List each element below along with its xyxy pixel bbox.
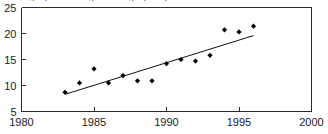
data-point-marker — [222, 27, 227, 32]
x-tick-label: 1980 — [9, 116, 33, 128]
data-point-marker — [193, 58, 198, 63]
y-tick-label: 10 — [4, 80, 16, 92]
data-point-marker — [77, 80, 82, 85]
chart-figure: Average percentage change per year 51015… — [0, 0, 328, 134]
y-axis-labels: 510152025 — [4, 2, 16, 118]
x-tick-label: 1995 — [227, 116, 251, 128]
plot-frame — [22, 8, 312, 112]
x-axis-ticks — [22, 107, 312, 112]
y-tick-label: 25 — [4, 2, 16, 14]
scatter-chart: 510152025 19801985199019952000 — [0, 0, 328, 134]
data-point-marker — [207, 53, 212, 58]
data-points — [62, 24, 256, 95]
x-tick-label: 1985 — [82, 116, 106, 128]
y-tick-label: 20 — [4, 28, 16, 40]
data-point-marker — [135, 78, 140, 83]
data-point-marker — [251, 24, 256, 29]
data-point-marker — [236, 29, 241, 34]
data-point-marker — [149, 78, 154, 83]
y-tick-label: 15 — [4, 54, 16, 66]
data-point-marker — [91, 66, 96, 71]
y-axis-ticks — [22, 8, 26, 112]
trend-line-segment — [65, 36, 254, 95]
data-point-marker — [120, 73, 125, 78]
x-axis-labels: 19801985199019952000 — [9, 116, 323, 128]
x-tick-label: 1990 — [154, 116, 178, 128]
trend-line — [65, 36, 254, 95]
x-tick-label: 2000 — [299, 116, 323, 128]
